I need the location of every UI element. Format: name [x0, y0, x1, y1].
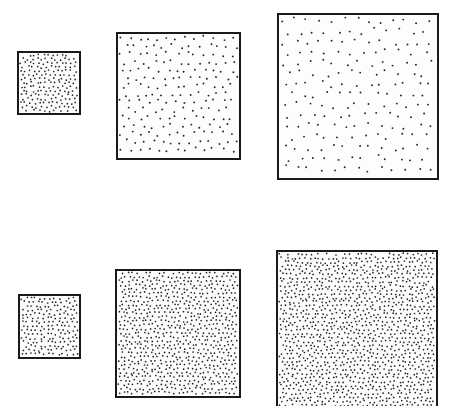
bottom-row-large-square — [276, 250, 438, 406]
dot-pattern — [117, 271, 239, 396]
dot-pattern — [278, 252, 436, 406]
top-row-large-square — [277, 13, 439, 180]
top-row-medium-square — [116, 32, 241, 160]
dot-pattern — [118, 34, 239, 158]
bottom-row-medium-square — [115, 269, 241, 398]
top-row-small-square — [17, 51, 81, 115]
bottom-row-small-square — [18, 294, 81, 359]
dot-pattern — [19, 53, 79, 113]
dot-pattern — [279, 15, 437, 178]
dot-pattern — [20, 296, 79, 357]
